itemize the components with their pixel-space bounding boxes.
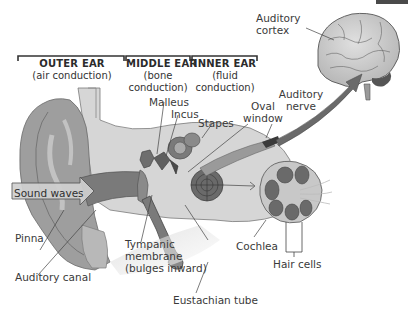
inner-ear-header: INNER EAR (fluid conduction) bbox=[192, 58, 258, 94]
label-auditory-canal: Auditory canal bbox=[15, 271, 91, 283]
label-cochlea: Cochlea bbox=[236, 240, 278, 252]
label-sound-waves: Sound waves bbox=[14, 187, 84, 199]
label-auditory-cortex: Auditory cortex bbox=[256, 12, 301, 36]
label-incus: Incus bbox=[171, 108, 199, 120]
label-stapes: Stapes bbox=[198, 117, 234, 129]
label-pinna: Pinna bbox=[15, 232, 44, 244]
cochlea-cross-section bbox=[260, 161, 332, 222]
hair-cells-bracket bbox=[286, 222, 302, 257]
label-malleus: Malleus bbox=[149, 96, 189, 108]
label-eustachian-tube: Eustachian tube bbox=[173, 294, 258, 306]
ear-diagram: OUTER EAR (air conduction) MIDDLE EAR (b… bbox=[0, 0, 408, 317]
label-hair-cells: Hair cells bbox=[273, 258, 321, 270]
label-tympanic-membrane: Tympanic membrane (bulges inward) bbox=[125, 238, 207, 274]
brain-shape bbox=[318, 13, 400, 100]
outer-ear-header: OUTER EAR (air conduction) bbox=[22, 58, 122, 82]
label-oval-window: Oval window bbox=[240, 100, 286, 124]
middle-ear-header: MIDDLE EAR (bone conduction) bbox=[126, 58, 190, 94]
